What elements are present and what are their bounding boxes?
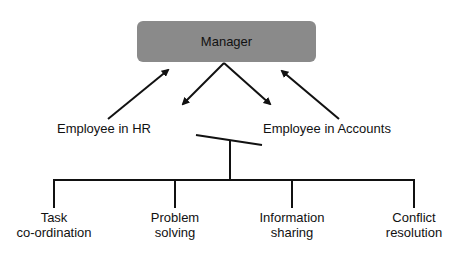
arrow-manager-to-hr — [183, 63, 224, 104]
task-coordination-node: Task co-ordination — [14, 210, 94, 240]
problem-solving-node: Problem solving — [135, 210, 215, 240]
arrow-manager-to-accounts — [224, 63, 270, 104]
information-sharing-node: Information sharing — [252, 210, 332, 240]
manager-label: Manager — [201, 34, 252, 49]
arrow-accounts-to-manager — [282, 71, 339, 119]
conflict-resolution-node: Conflict resolution — [374, 210, 454, 240]
employee-hr-node: Employee in HR — [57, 121, 151, 136]
arrow-hr-to-manager — [108, 70, 168, 119]
employee-accounts-node: Employee in Accounts — [263, 121, 391, 136]
manager-node: Manager — [137, 21, 316, 62]
